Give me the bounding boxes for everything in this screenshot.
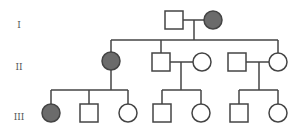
generation-labels: IIIIII [14,20,25,122]
female-symbol [193,53,211,71]
generation-label: II [15,62,23,72]
female-symbol [119,104,137,122]
male-symbol [80,104,98,122]
female-symbol [269,53,287,71]
female-symbol [192,104,210,122]
affected-female-symbol [42,104,60,122]
pedigree-individuals [42,11,287,122]
generation-label: III [14,112,25,122]
affected-female-symbol [102,52,120,70]
pedigree-diagram: IIIIII [0,0,305,130]
male-symbol [230,104,248,122]
male-symbol [153,104,171,122]
male-symbol [228,53,246,71]
male-symbol [165,11,183,29]
male-symbol [152,53,170,71]
generation-label: I [17,20,21,30]
affected-female-symbol [204,11,222,29]
female-symbol [269,104,287,122]
